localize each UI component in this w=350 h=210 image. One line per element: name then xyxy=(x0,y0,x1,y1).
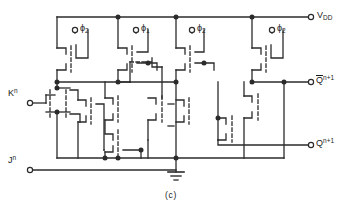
drv2-d-lead xyxy=(105,98,113,104)
junction-dot xyxy=(116,156,121,161)
load3-source-lead xyxy=(176,64,185,70)
drv3-s-lead xyxy=(105,146,113,152)
drv3-d-lead xyxy=(105,120,113,140)
junction-dot xyxy=(55,110,60,115)
junction-dot xyxy=(282,80,287,85)
phi2a-label: ϕ2 xyxy=(80,24,89,33)
drv3-gate-run xyxy=(123,150,141,158)
kT1-out xyxy=(70,90,78,100)
figure-caption: (c) xyxy=(165,190,177,200)
vdd-terminal[interactable] xyxy=(308,14,313,19)
junction-dot xyxy=(103,156,108,161)
kT2-out xyxy=(70,114,80,122)
drv4-d-lead xyxy=(148,98,156,104)
drv7-d-lead xyxy=(244,96,252,102)
qbar-terminal[interactable] xyxy=(308,79,313,84)
j-terminal[interactable] xyxy=(27,167,32,172)
k-terminal[interactable] xyxy=(27,100,32,105)
phi1-label: ϕ1 xyxy=(141,24,150,33)
vdd-label: VDD xyxy=(317,11,332,20)
junction-dot xyxy=(250,80,255,85)
junction-dot xyxy=(55,80,60,85)
phi2b-terminal[interactable] xyxy=(189,27,194,32)
q-output-label: Qn+1 xyxy=(316,139,334,148)
j-input-label: Jn xyxy=(8,156,16,165)
wire-group xyxy=(30,17,311,180)
phi1-terminal[interactable] xyxy=(133,27,138,32)
drv1-gate xyxy=(96,104,104,150)
junction-dot xyxy=(174,156,179,161)
junction-dot xyxy=(174,80,179,85)
circuit-figure: VDD ϕ2 ϕ1 ϕ2 ϕ2 Kn Jn Qn+1 Qn+1 (c) xyxy=(0,0,350,210)
load3-drain-lead xyxy=(176,48,185,54)
schematic-canvas xyxy=(0,0,350,210)
q-terminal[interactable] xyxy=(308,142,313,147)
terminal-circle-group xyxy=(27,14,313,172)
junction-dot xyxy=(146,61,151,66)
phi2b-label: ϕ2 xyxy=(197,24,206,33)
drv2-s-lead xyxy=(105,114,113,120)
drv7-s-lead xyxy=(244,112,252,118)
junction-dot xyxy=(139,148,144,153)
load1-drain-lead xyxy=(57,48,66,54)
phi2a-terminal[interactable] xyxy=(72,27,77,32)
junction-dot xyxy=(250,15,255,20)
junction-dot xyxy=(116,15,121,20)
phi2c-label: ϕ2 xyxy=(277,24,286,33)
drv1-d-lead xyxy=(78,100,86,106)
drv6-s-lead xyxy=(176,116,184,122)
junction-dot xyxy=(116,80,121,85)
junction-dot xyxy=(202,61,207,66)
junction-dot xyxy=(216,116,221,121)
qbar-output-label: Qn+1 xyxy=(316,76,334,85)
drv4-s-lead xyxy=(148,114,156,120)
junction-dot xyxy=(55,86,60,91)
k-input-label: Kn xyxy=(8,89,18,98)
load4-gate-lead xyxy=(271,30,283,58)
load4-source-lead xyxy=(252,64,261,70)
phi2c-terminal[interactable] xyxy=(269,27,274,32)
drv8-s-lead xyxy=(218,134,226,140)
load2-drain-lead xyxy=(118,48,127,54)
load2-source-lead xyxy=(118,64,127,70)
load1-gate-lead xyxy=(76,30,88,58)
load1-source-lead xyxy=(57,64,66,70)
load4-drain-lead xyxy=(252,48,261,54)
overbar-q: Q xyxy=(316,76,323,85)
drv1-s-lead xyxy=(78,116,86,122)
junction-dot xyxy=(174,15,179,20)
drv6-d-lead xyxy=(176,100,184,106)
